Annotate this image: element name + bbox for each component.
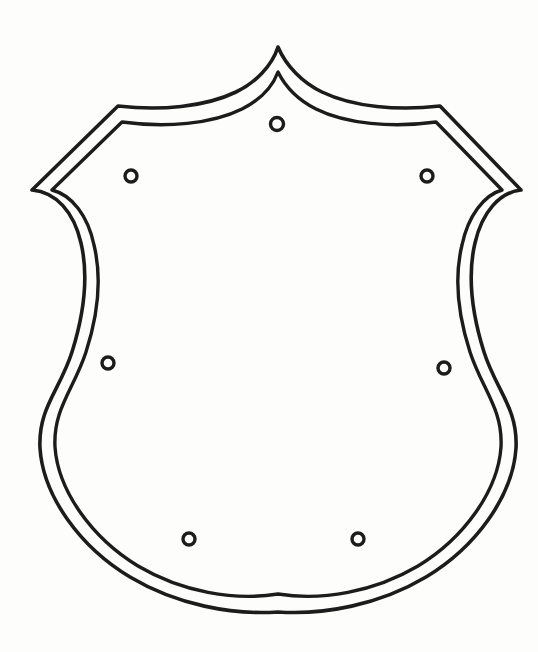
drawing-canvas: [0, 0, 538, 652]
shield-illustration: [0, 0, 538, 652]
